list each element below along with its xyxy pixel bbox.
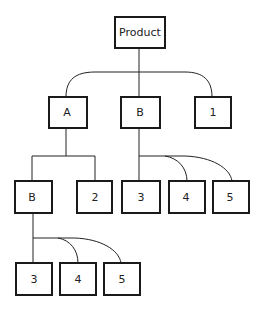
node-label: 4 [183, 191, 190, 204]
node-1: 1 [195, 97, 231, 128]
node-b-sub-4: 4 [60, 263, 96, 295]
node-b-4: 4 [169, 181, 205, 213]
edge-b-4 [139, 156, 187, 181]
node-2: 2 [77, 181, 112, 213]
edge-b2-4 [33, 238, 78, 263]
node-product: Product [115, 17, 165, 48]
product-structure-tree: Product A B 1 B 2 3 4 5 3 4 5 [0, 0, 263, 310]
node-label: 3 [138, 191, 145, 204]
node-b-5: 5 [213, 181, 249, 213]
node-label: 4 [75, 273, 82, 286]
connectors [32, 48, 232, 263]
node-label: 1 [210, 106, 217, 119]
node-label: A [63, 106, 71, 119]
node-label: B [28, 191, 36, 204]
node-label: 5 [227, 191, 234, 204]
node-b-sub-3: 3 [16, 263, 52, 295]
node-label: Product [119, 26, 161, 39]
node-b: B [121, 97, 160, 128]
node-label: B [136, 106, 144, 119]
edge-a-children [32, 128, 95, 181]
node-b-sub: B [15, 181, 52, 213]
node-b-3: 3 [122, 181, 160, 213]
node-label: 3 [31, 273, 38, 286]
node-label: 2 [92, 191, 99, 204]
node-a: A [49, 97, 87, 128]
node-b-sub-5: 5 [104, 263, 140, 295]
node-label: 5 [119, 273, 126, 286]
